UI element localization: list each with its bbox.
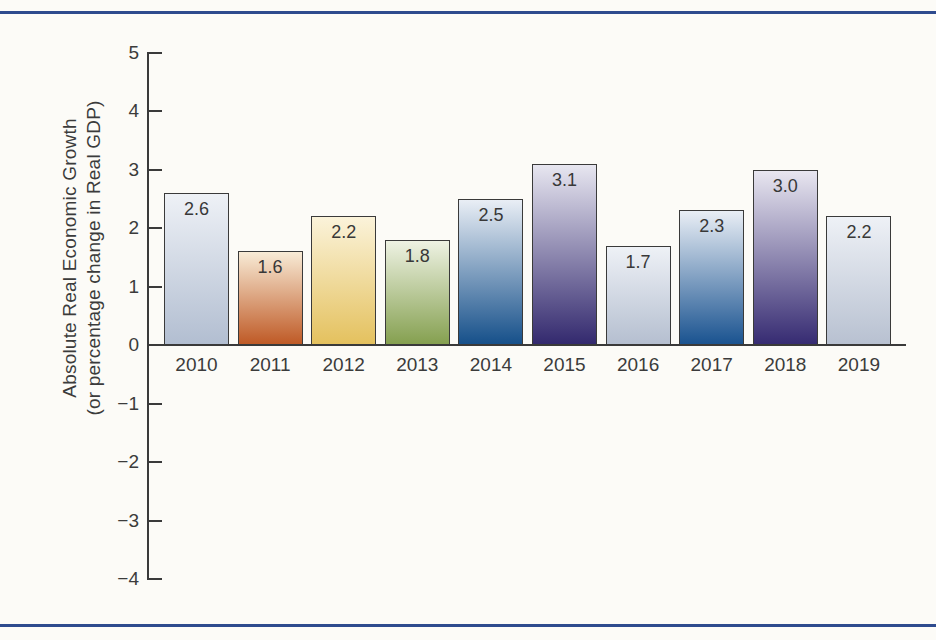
bar-chart-plot: 543210−1−2−3−42.620101.620112.220121.820… <box>0 0 936 640</box>
bar-2016: 1.7 <box>606 246 671 345</box>
bar-value-label-2010: 2.6 <box>165 199 228 220</box>
y-tick <box>147 403 162 405</box>
x-tick-label-2014: 2014 <box>454 354 528 376</box>
y-tick-label: −2 <box>93 451 139 473</box>
y-tick <box>147 169 162 171</box>
bottom-rule <box>0 624 936 627</box>
bar-2013: 1.8 <box>385 240 450 345</box>
bar-2010: 2.6 <box>164 193 229 345</box>
bar-2014: 2.5 <box>458 199 523 345</box>
bar-value-label-2016: 1.7 <box>607 252 670 273</box>
bar-2012: 2.2 <box>311 216 376 345</box>
y-tick-label: −1 <box>93 393 139 415</box>
bar-2019: 2.2 <box>826 216 891 345</box>
y-tick-label: 5 <box>93 42 139 64</box>
x-tick-label-2011: 2011 <box>233 354 307 376</box>
x-tick-label-2016: 2016 <box>601 354 675 376</box>
y-tick-label: −3 <box>93 510 139 532</box>
bar-2018: 3.0 <box>753 170 818 346</box>
y-tick-label: 2 <box>93 217 139 239</box>
x-tick-label-2018: 2018 <box>749 354 823 376</box>
bar-value-label-2013: 1.8 <box>386 246 449 267</box>
y-tick-label: 1 <box>93 276 139 298</box>
y-tick <box>147 520 162 522</box>
x-tick-label-2010: 2010 <box>160 354 234 376</box>
bar-value-label-2015: 3.1 <box>533 170 596 191</box>
y-tick <box>147 578 162 580</box>
bar-2017: 2.3 <box>679 210 744 345</box>
x-tick-label-2012: 2012 <box>307 354 381 376</box>
y-tick <box>147 461 162 463</box>
y-tick-label: 4 <box>93 100 139 122</box>
x-tick-label-2013: 2013 <box>381 354 455 376</box>
bar-2015: 3.1 <box>532 164 597 345</box>
y-tick-label: −4 <box>93 568 139 590</box>
y-axis-line <box>147 53 149 580</box>
bar-value-label-2019: 2.2 <box>827 222 890 243</box>
bar-value-label-2012: 2.2 <box>312 222 375 243</box>
bar-2011: 1.6 <box>238 251 303 345</box>
y-tick-label: 0 <box>93 334 139 356</box>
x-tick-label-2017: 2017 <box>675 354 749 376</box>
y-tick <box>147 52 162 54</box>
y-tick <box>147 286 162 288</box>
bar-value-label-2014: 2.5 <box>459 205 522 226</box>
bar-value-label-2011: 1.6 <box>239 257 302 278</box>
figure-page: Absolute Real Economic Growth (or percen… <box>0 0 936 640</box>
y-tick-label: 3 <box>93 159 139 181</box>
bar-value-label-2018: 3.0 <box>754 176 817 197</box>
bar-value-label-2017: 2.3 <box>680 216 743 237</box>
x-tick-label-2015: 2015 <box>528 354 602 376</box>
y-tick <box>147 227 162 229</box>
y-tick <box>147 110 162 112</box>
x-tick-label-2019: 2019 <box>822 354 896 376</box>
